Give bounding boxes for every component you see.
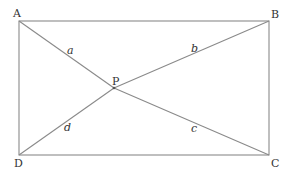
segment-label-b: b <box>191 42 198 55</box>
vertex-label-c: C <box>271 157 279 170</box>
segment-label-c: c <box>191 122 197 135</box>
segment-label-a: a <box>67 44 74 57</box>
vertex-label-a: A <box>12 7 22 20</box>
rectangle-point-diagram: A B C D P a b c d <box>0 0 289 173</box>
vertex-label-b: B <box>271 8 279 21</box>
vertex-label-d: D <box>14 157 23 170</box>
rectangle-abcd <box>19 21 269 155</box>
segment-label-d: d <box>64 121 71 134</box>
point-label-p: P <box>112 75 120 88</box>
